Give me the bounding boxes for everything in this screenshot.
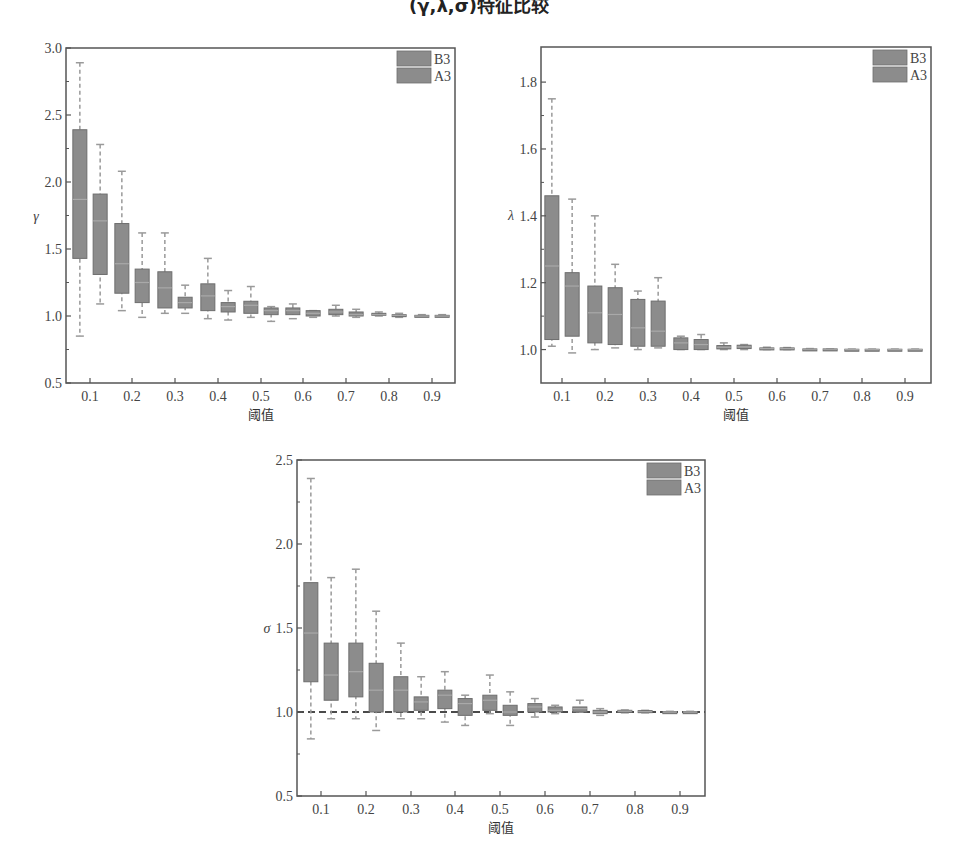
box-B3-0.2 [349,569,363,719]
x-tick-label: 0.1 [312,802,330,817]
x-tick-label: 0.4 [682,389,700,404]
box-B3-0.6 [286,304,300,319]
x-tick-label: 0.7 [581,802,599,817]
x-tick-label: 0.6 [536,802,554,817]
y-tick-label: 1.0 [520,343,538,358]
box-B3-0.5 [483,675,497,714]
plot-frame [297,460,705,796]
box-A3-0.2 [608,264,622,348]
x-tick-label: 0.9 [671,802,689,817]
box-A3-0.5 [264,307,278,322]
box-B3-0.9 [415,315,429,318]
box-B3-0.4 [674,336,688,349]
chart-gamma: 0.51.01.52.02.53.00.10.20.30.40.50.60.70… [33,41,455,422]
box-A3-0.1 [324,578,338,719]
box-A3-0.1 [565,199,579,353]
box-A3-0.5 [503,692,517,726]
x-tick-label: 0.9 [423,389,441,404]
box-B3-0.9 [663,711,677,713]
x-tick-label: 0.8 [380,389,398,404]
x-tick-label: 0.4 [446,802,464,817]
y-tick-label: 1.0 [276,705,294,720]
x-tick-label: 0.5 [491,802,509,817]
box-A3-0.6 [780,348,794,350]
chart-lambda: 1.01.21.41.61.80.10.20.30.40.50.60.70.80… [507,47,931,422]
box-B3-0.7 [573,700,587,712]
y-tick-label: 1.8 [520,75,538,90]
chart-sigma: 0.51.01.52.02.50.10.20.30.40.50.60.70.80… [264,453,705,835]
x-axis-label: 阈值 [488,820,514,835]
box-B3-0.8 [618,710,632,713]
x-tick-label: 0.6 [294,389,312,404]
x-tick-label: 0.9 [896,389,914,404]
legend-swatch-B3 [397,51,431,66]
box-A3-0.7 [823,349,837,351]
x-tick-label: 0.3 [402,802,420,817]
y-tick-label: 2.0 [276,537,294,552]
legend-label-A3: A3 [684,481,701,496]
x-tick-label: 0.2 [596,389,614,404]
y-axis-label: σ [264,621,272,636]
box-A3-0.5 [737,345,751,350]
legend-label-B3: B3 [434,52,450,67]
box-A3-0.6 [306,311,320,318]
series-A3 [565,199,922,353]
box-A3-0.4 [458,695,472,725]
y-tick-label: 0.5 [45,376,63,391]
legend: B3A3 [647,463,701,496]
box-B3-0.7 [803,349,817,351]
legend-label-B3: B3 [910,51,926,66]
y-axis-label: γ [33,209,39,224]
plot-frame [66,48,455,383]
box-A3-0.4 [221,291,235,320]
box-B3-0.2 [115,171,129,310]
box-A3-0.3 [651,278,665,348]
box-A3-0.2 [369,611,383,730]
y-tick-label: 1.5 [45,242,63,257]
y-tick-label: 1.4 [520,209,538,224]
x-axis-label: 阈值 [723,407,749,422]
box-B3-0.4 [438,672,452,722]
figure-canvas: 0.51.01.52.02.53.00.10.20.30.40.50.60.70… [0,0,958,864]
box-A3-0.8 [865,349,879,351]
y-tick-label: 1.5 [276,621,294,636]
legend-swatch-A3 [397,68,431,83]
box-A3-0.8 [638,710,652,713]
box-B3-0.4 [201,258,215,318]
legend-label-A3: A3 [910,68,927,83]
box-A3-0.9 [683,711,697,713]
box-B3-0.3 [394,643,408,719]
box-A3-0.6 [548,705,562,713]
series-A3 [324,578,697,731]
box-B3-0.1 [545,99,559,346]
y-tick-label: 2.5 [45,108,63,123]
x-tick-label: 0.2 [123,389,141,404]
box-B3-0.1 [304,478,318,738]
box-B3-0.9 [888,349,902,351]
box-B3-0.5 [717,343,731,350]
legend-swatch-A3 [647,480,681,495]
y-tick-label: 1.6 [520,142,538,157]
x-tick-label: 0.5 [725,389,743,404]
x-tick-label: 0.7 [811,389,829,404]
x-axis-label: 阈值 [248,407,274,422]
y-tick-label: 2.5 [276,453,294,468]
box-B3-0.1 [73,63,87,336]
box-A3-0.9 [908,349,922,351]
box-B3-0.7 [329,305,343,316]
box-B3-0.3 [631,291,645,350]
y-tick-label: 0.5 [276,789,294,804]
legend-label-A3: A3 [434,69,451,84]
x-tick-label: 0.3 [166,389,184,404]
x-tick-label: 0.5 [252,389,270,404]
series-B3 [304,478,677,738]
x-tick-label: 0.1 [553,389,571,404]
y-tick-label: 3.0 [45,41,63,56]
box-A3-0.8 [392,313,406,317]
box-B3-0.8 [372,312,386,316]
box-A3-0.4 [694,335,708,350]
legend-label-B3: B3 [684,464,700,479]
x-tick-label: 0.1 [81,389,99,404]
box-A3-0.9 [435,315,449,318]
y-tick-label: 1.2 [520,276,538,291]
